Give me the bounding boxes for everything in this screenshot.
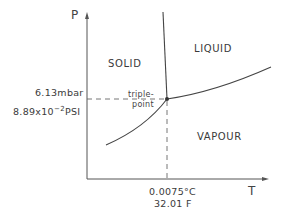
region-solid: SOLID xyxy=(108,58,141,69)
fusion-curve xyxy=(163,12,167,99)
region-vapour: VAPOUR xyxy=(197,131,242,142)
pressure-axis-arrow-icon xyxy=(85,12,89,19)
pressure-axis-label: P xyxy=(71,8,79,22)
psi-exponent: −2 xyxy=(54,105,65,113)
triple-point-pressure-psi: 8.89x10−2PSI xyxy=(13,105,80,117)
triple-point-temperature-f: 32.01 F xyxy=(154,198,192,209)
vaporization-curve xyxy=(167,67,271,99)
psi-unit: PSI xyxy=(65,106,80,117)
triple-point-temperature-c: 0.0075°C xyxy=(149,186,196,197)
triple-point-marker xyxy=(165,97,169,101)
triple-point-label-line2: point xyxy=(132,100,154,109)
temperature-axis-label: T xyxy=(248,184,256,198)
triple-point-label-line1: triple- xyxy=(128,90,154,99)
psi-base: 8.89x10 xyxy=(13,106,54,117)
temperature-axis-arrow-icon xyxy=(262,177,269,181)
region-liquid: LIQUID xyxy=(194,43,232,54)
triple-point-pressure-mbar: 6.13mbar xyxy=(35,87,84,98)
